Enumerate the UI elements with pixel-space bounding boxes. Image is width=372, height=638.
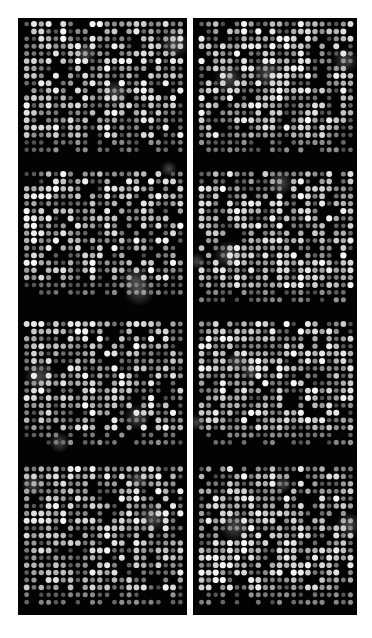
spot-grid-left — [18, 18, 187, 615]
microarray-panel-right — [193, 18, 357, 615]
spot-grid-right — [193, 18, 357, 615]
microarray-panel-left — [18, 18, 187, 615]
